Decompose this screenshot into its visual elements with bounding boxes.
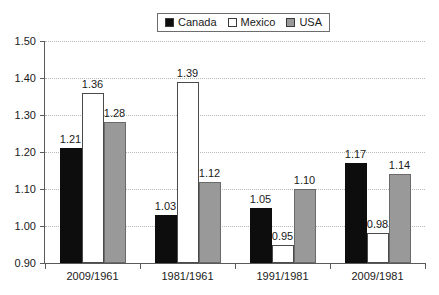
bar-canada-0: [60, 148, 82, 263]
bar-value-label: 1.05: [244, 194, 278, 205]
bar-value-label: 1.39: [171, 68, 205, 79]
legend-swatch-canada: [165, 18, 174, 27]
bar-usa-1: [199, 182, 221, 263]
bar-mexico-2: [272, 245, 294, 264]
legend-swatch-mexico: [228, 18, 237, 27]
legend-entry-canada: Canada: [165, 17, 217, 28]
gridline: [45, 41, 425, 42]
bar-value-label: 1.28: [98, 108, 132, 119]
bar-usa-3: [389, 174, 411, 263]
x-axis-tick: [425, 263, 426, 269]
x-axis-tick: [235, 263, 236, 269]
y-axis-tick-label: 1.40: [0, 73, 36, 84]
bar-value-label: 1.10: [288, 175, 322, 186]
bar-canada-1: [155, 215, 177, 263]
y-axis-tick-label: 1.20: [0, 147, 36, 158]
x-axis-category-label: 1991/1981: [235, 271, 330, 282]
x-axis-category-label: 1981/1961: [140, 271, 235, 282]
legend-label-mexico: Mexico: [241, 17, 276, 28]
legend-entry-mexico: Mexico: [228, 17, 276, 28]
bar-canada-3: [345, 163, 367, 263]
legend-entry-usa: USA: [286, 17, 322, 28]
y-axis-tick-label: 1.30: [0, 110, 36, 121]
legend-label-usa: USA: [299, 17, 322, 28]
y-axis-tick-label: 1.00: [0, 221, 36, 232]
y-axis-tick-label: 0.90: [0, 258, 36, 269]
bar-chart: Canada Mexico USA 1.501.401.301.201.101.…: [0, 0, 439, 295]
x-axis-tick: [140, 263, 141, 269]
plot-area: 1.211.361.281.031.391.121.050.951.101.17…: [45, 41, 425, 263]
y-axis-tick-label: 1.10: [0, 184, 36, 195]
legend-label-canada: Canada: [178, 17, 217, 28]
bar-usa-0: [104, 122, 126, 263]
x-axis-tick: [45, 263, 46, 269]
chart-legend: Canada Mexico USA: [157, 13, 330, 32]
bar-usa-2: [294, 189, 316, 263]
y-axis-tick-label: 1.50: [0, 36, 36, 47]
bar-value-label: 1.17: [339, 149, 373, 160]
bar-value-label: 1.36: [76, 79, 110, 90]
x-axis-tick: [330, 263, 331, 269]
legend-swatch-usa: [286, 18, 295, 27]
bar-value-label: 1.14: [383, 160, 417, 171]
x-axis-category-label: 2009/1981: [330, 271, 425, 282]
bar-value-label: 1.12: [193, 168, 227, 179]
bar-mexico-3: [367, 233, 389, 263]
x-axis-category-label: 2009/1961: [45, 271, 140, 282]
